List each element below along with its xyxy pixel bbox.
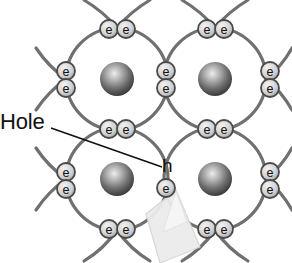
electron-right-edge-upper: e xyxy=(261,62,279,80)
electron-label: e xyxy=(204,223,211,237)
electron-right-edge-low-dn: e xyxy=(261,180,279,198)
electron-label: e xyxy=(123,23,130,37)
electron-center-upper: e xyxy=(157,62,175,80)
electron-label: e xyxy=(106,123,113,137)
nucleus-bottom-right xyxy=(198,162,232,196)
electron-right-edge-lower: e xyxy=(261,79,279,97)
nucleus-top-right xyxy=(198,62,232,96)
electron-label: e xyxy=(204,123,211,137)
electron-bottom-row-right-b: e xyxy=(215,220,233,238)
nucleus-bottom-left xyxy=(100,162,134,196)
electron-label: e xyxy=(221,223,228,237)
electron-label: e xyxy=(63,82,70,96)
electron-left-edge-lower: e xyxy=(57,79,75,97)
electron-left-edge-lower2-dn: e xyxy=(57,180,75,198)
electron-center-lower: e xyxy=(157,79,175,97)
electron-top-row-left-a: e xyxy=(100,20,118,38)
electron-label: e xyxy=(267,183,274,197)
electron-label: e xyxy=(267,82,274,96)
electron-middle-row-left-a: e xyxy=(100,120,118,138)
electron-top-row-left-b: e xyxy=(117,20,135,38)
hole-in-covalent-lattice-diagram: eeeeeeeeeeeeeeeeeeeeeee h Hole xyxy=(0,0,292,263)
electron-label: e xyxy=(204,23,211,37)
electron-label: e xyxy=(123,123,130,137)
hole-marker-label: h xyxy=(162,155,173,176)
electron-label: e xyxy=(106,223,113,237)
hole-annotation-label: Hole xyxy=(0,111,44,133)
electron-middle-row-right-a: e xyxy=(198,120,216,138)
electron-label: e xyxy=(221,123,228,137)
electron-label: e xyxy=(123,223,130,237)
electron-label: e xyxy=(221,23,228,37)
electron-left-edge-upper: e xyxy=(57,62,75,80)
electron-top-row-right-a: e xyxy=(198,20,216,38)
electron-bottom-row-right-a: e xyxy=(198,220,216,238)
electron-label: e xyxy=(63,183,70,197)
electron-label: e xyxy=(267,166,274,180)
electron-label: e xyxy=(63,65,70,79)
electron-bottom-row-left-a: e xyxy=(100,220,118,238)
electron-label: e xyxy=(267,65,274,79)
electron-right-edge-low-up: e xyxy=(261,163,279,181)
electron-label: e xyxy=(163,182,170,196)
electron-middle-row-left-b: e xyxy=(117,120,135,138)
electron-label: e xyxy=(163,65,170,79)
electron-top-row-right-b: e xyxy=(215,20,233,38)
electron-label: e xyxy=(163,82,170,96)
electron-label: e xyxy=(63,166,70,180)
electron-hole-site-lower: e xyxy=(157,179,175,197)
nucleus-top-left xyxy=(100,62,134,96)
electron-middle-row-right-b: e xyxy=(215,120,233,138)
pointer-arrow-icon xyxy=(146,190,200,263)
electron-left-edge-lower2-up: e xyxy=(57,163,75,181)
electron-bottom-row-left-b: e xyxy=(117,220,135,238)
electron-label: e xyxy=(106,23,113,37)
